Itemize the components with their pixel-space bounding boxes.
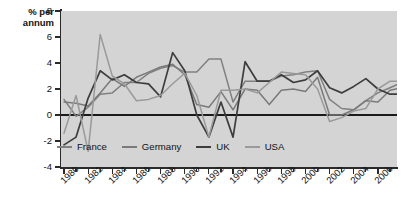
legend-line-icon (196, 146, 211, 149)
x-tick (148, 168, 149, 172)
legend-label: Germany (142, 142, 181, 152)
legend-label: UK (216, 142, 229, 152)
x-tick (75, 168, 76, 172)
x-tick (172, 168, 173, 172)
x-tick (100, 168, 101, 172)
series-line-uk (64, 53, 397, 145)
x-axis-line (60, 167, 398, 169)
legend-line-icon (57, 146, 72, 149)
x-tick (317, 168, 318, 172)
legend-item-uk[interactable]: UK (196, 142, 229, 152)
x-tick (245, 168, 246, 172)
x-tick (196, 168, 197, 172)
legend-item-usa[interactable]: USA (245, 142, 285, 152)
y-tick-label: 4 (12, 58, 52, 68)
x-tick (389, 168, 390, 172)
legend-item-germany[interactable]: Germany (122, 142, 181, 152)
legend-label: USA (265, 142, 285, 152)
y-tick-label: -4 (12, 162, 52, 172)
x-tick (341, 168, 342, 172)
chart-figure: % per annum 86420-2-4 198019821984198619… (0, 0, 410, 206)
x-tick (220, 168, 221, 172)
y-tick-label: 2 (12, 84, 52, 94)
y-tick-label: 6 (12, 32, 52, 42)
legend-item-france[interactable]: France (57, 142, 107, 152)
y-tick-label: -2 (12, 136, 52, 146)
x-tick (293, 168, 294, 172)
x-tick (269, 168, 270, 172)
x-tick (124, 168, 125, 172)
y-tick-label: 8 (12, 6, 52, 16)
legend: FranceGermanyUKUSA (57, 140, 299, 154)
series-line-france (64, 59, 397, 116)
y-tick-label: 0 (12, 110, 52, 120)
x-tick (365, 168, 366, 172)
y-axis-title-line2: annum (23, 17, 54, 28)
legend-line-icon (245, 146, 260, 149)
legend-line-icon (122, 146, 137, 149)
legend-label: France (77, 142, 107, 152)
